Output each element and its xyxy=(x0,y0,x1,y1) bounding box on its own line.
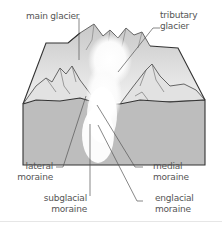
label-medial-line1: medial xyxy=(153,161,189,172)
label-medial-line2: moraine xyxy=(153,172,189,183)
label-subglacial-line2: moraine xyxy=(30,204,87,215)
label-englacial-line1: englacial xyxy=(155,193,194,204)
bottom-divider xyxy=(0,221,222,222)
label-tributary-line2: glacier xyxy=(160,21,197,32)
label-lateral-line1: lateral xyxy=(10,161,53,172)
label-lateral-moraine: lateral moraine xyxy=(10,161,53,183)
label-tributary-line1: tributary xyxy=(160,10,197,21)
label-englacial-line2: moraine xyxy=(155,204,194,215)
label-tributary-glacier: tributary glacier xyxy=(160,10,197,32)
label-englacial-moraine: englacial moraine xyxy=(155,193,194,215)
label-medial-moraine: medial moraine xyxy=(153,161,189,183)
label-subglacial-moraine: subglacial moraine xyxy=(30,193,87,215)
label-subglacial-line1: subglacial xyxy=(30,193,87,204)
label-main-glacier: main glacier xyxy=(26,11,79,22)
label-lateral-line2: moraine xyxy=(10,172,53,183)
